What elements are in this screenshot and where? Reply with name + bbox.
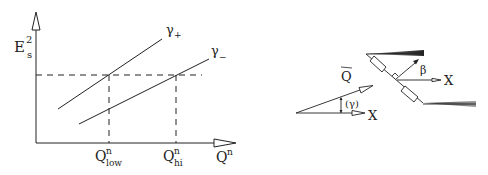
- q-vector-label: Q: [341, 69, 352, 84]
- right-angle-mark: [392, 73, 398, 76]
- beta-label: β: [420, 64, 426, 77]
- figure-canvas: E 2 s γ + γ − Q n low Q n hi Q n: [0, 0, 488, 175]
- upper-x-arrow-icon: [432, 78, 441, 81]
- upper-slanted-box: [370, 56, 386, 72]
- q-vector-bar: [341, 67, 352, 68]
- x-axis-label: Q: [216, 149, 227, 165]
- left-plot: [32, 12, 236, 147]
- q-vector-arrow-icon: [359, 86, 373, 94]
- upper-x-label: X: [444, 73, 454, 88]
- gamma-plus-sub: +: [174, 30, 182, 40]
- q-hi-sup: n: [174, 146, 180, 156]
- gamma-minus-sub: −: [219, 52, 227, 62]
- curve-gamma-plus: [58, 39, 162, 109]
- y-axis-label-sub: s: [27, 49, 32, 60]
- curve-gamma-minus: [79, 59, 209, 124]
- q-hi-label: Q: [163, 148, 174, 164]
- y-axis-label: E: [14, 38, 25, 56]
- lower-slanted-box: [401, 86, 418, 102]
- q-low-sup: n: [106, 146, 112, 156]
- gamma-angle-label: (γ): [345, 98, 359, 109]
- q-low-label: Q: [95, 148, 106, 164]
- q-low-sub: low: [106, 158, 122, 168]
- gamma-minus-label: γ: [211, 43, 219, 58]
- q-hi-sub: hi: [174, 158, 183, 168]
- lower-x-label: X: [368, 108, 378, 123]
- gamma-plus-label: γ: [166, 22, 174, 37]
- y-axis-arrow-icon: [32, 12, 40, 30]
- x-axis-arrow-icon: [214, 139, 236, 147]
- x-axis-label-sup: n: [227, 147, 233, 157]
- y-axis-label-sup: 2: [26, 34, 32, 45]
- lower-x-arrow-icon: [352, 111, 365, 116]
- normal-vector-line: [396, 63, 415, 79]
